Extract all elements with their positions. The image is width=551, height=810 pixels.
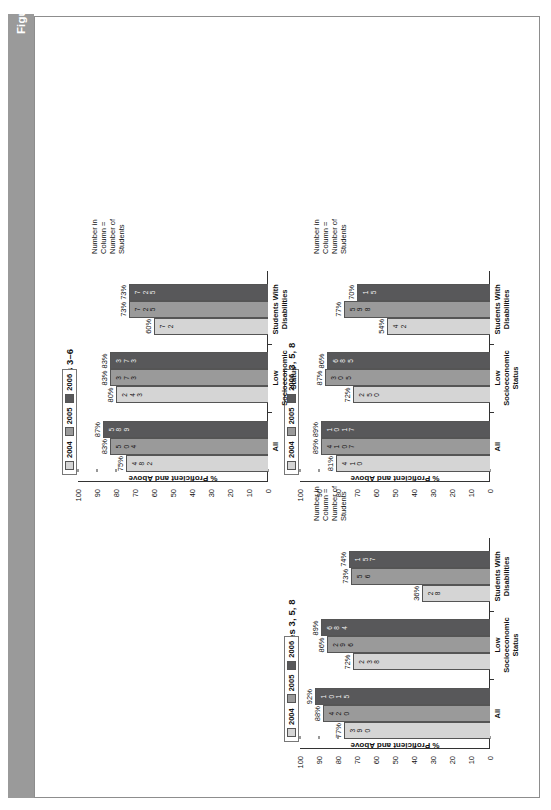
bar-2004-students[interactable]: 60%72 (154, 318, 268, 335)
bar-2006-all[interactable]: 92%1015 (315, 688, 490, 705)
count-digit: 7 (123, 376, 131, 380)
y-tick-label: 80 (112, 489, 121, 509)
legend-item-2005[interactable]: 2005 (65, 408, 74, 437)
bar-student-count: 373 (115, 376, 138, 380)
bar-group: 36%2873%5674%157Students With Disabiliti… (300, 542, 490, 611)
legend-item-2006[interactable]: 2006 (287, 641, 296, 670)
figure-title-bar (8, 14, 34, 798)
bar-2005-all[interactable]: 89%4107 (321, 438, 490, 455)
legend-label: 2004 (287, 441, 296, 458)
y-tick-label: 10 (245, 489, 254, 509)
bar-2005-low[interactable]: 87%305 (325, 370, 490, 387)
legend-swatch-icon (287, 661, 296, 670)
legend-item-2006[interactable]: 2006 (65, 374, 74, 403)
group-separator (490, 344, 494, 345)
legend-swatch-icon (65, 461, 74, 470)
bar-2005-students[interactable]: 73%725 (129, 301, 268, 318)
bar-2006-low[interactable]: 89%684 (321, 620, 490, 637)
count-digit: 5 (345, 376, 353, 380)
bar-group-label: Students With Disabilities (493, 542, 511, 611)
bar-2004-low[interactable]: 80%243 (116, 387, 268, 404)
count-digit: 1 (335, 695, 343, 699)
count-digit: 3 (130, 359, 138, 363)
y-tick-label: 80 (334, 489, 343, 509)
bar-value-label: 72% (343, 654, 352, 669)
bar-2004-all[interactable]: 81%410 (336, 455, 490, 472)
bar-2005-low[interactable]: 86%296 (327, 637, 490, 654)
bar-2004-all[interactable]: 77%390 (344, 722, 490, 739)
bar-group-label: All (271, 412, 280, 481)
count-digit: 5 (370, 291, 378, 295)
y-tick-label: 10 (467, 756, 476, 776)
bar-student-count: 1015 (320, 695, 350, 699)
legend-item-2004[interactable]: 2004 (65, 441, 74, 470)
bar-2006-all[interactable]: 87%589 (103, 421, 268, 438)
bar-group: 77%39088%42092%1015All (300, 679, 490, 748)
bar-student-count: 305 (330, 376, 353, 380)
chart-science: Science, Grades 3–6% Proficient and Abov… (64, 271, 268, 521)
bar-2004-students[interactable]: 36%28 (422, 585, 490, 602)
bar-2004-all[interactable]: 75%482 (126, 455, 269, 472)
bar-2005-students[interactable]: 73%56 (351, 568, 490, 585)
bar-value-label: 77% (334, 302, 343, 317)
bar-value-label: 81% (326, 456, 335, 471)
y-tick-label: 0 (264, 489, 273, 509)
count-digit: 7 (123, 359, 131, 363)
bar-groups: 81%41089%410789%1017All72%25087%30586%68… (300, 275, 490, 481)
count-digit: 1 (320, 695, 328, 699)
count-digit: 4 (341, 626, 349, 630)
plot-area: % Proficient and Above100908070605040302… (300, 538, 490, 788)
bar-group-label: Low Socioeconomic Status (271, 344, 298, 413)
y-tick-label: 100 (74, 489, 83, 509)
bar-2005-students[interactable]: 77%598 (344, 301, 490, 318)
count-digit: 4 (326, 445, 334, 449)
bar-2006-students[interactable]: 70%15 (357, 284, 490, 301)
count-digit: 0 (341, 445, 349, 449)
count-digit: 2 (400, 325, 408, 329)
y-tick-label: 20 (448, 756, 457, 776)
legend-swatch-icon (65, 394, 74, 403)
bar-value-label: 83% (100, 353, 109, 368)
y-tick-label: 40 (410, 489, 419, 509)
count-digit: 1 (326, 428, 334, 432)
count-digit: 2 (142, 308, 150, 312)
bar-2005-all[interactable]: 88%420 (323, 705, 490, 722)
bar-2004-low[interactable]: 72%238 (353, 654, 490, 671)
bar-group: 81%41089%410789%1017All (300, 412, 490, 481)
count-digit: 0 (364, 729, 372, 733)
bar-2006-low[interactable]: 86%685 (327, 353, 490, 370)
bar-2004-low[interactable]: 72%250 (353, 387, 490, 404)
charts-rotated-wrapper: Mathematics, Grades 3, 5, 8% Proficient … (36, 18, 538, 796)
figure-title: Figure 1.2 Johnson County, Tennessee, Im… (8, 0, 34, 40)
bar-2006-low[interactable]: 83%373 (110, 353, 268, 370)
bar-2005-all[interactable]: 83%504 (110, 438, 268, 455)
count-digit: 5 (343, 695, 351, 699)
count-digit: 8 (434, 592, 442, 596)
count-digit: 5 (347, 359, 355, 363)
bar-2006-students[interactable]: 73%725 (129, 284, 268, 301)
y-tick-label: 20 (226, 489, 235, 509)
legend-swatch-icon (287, 461, 296, 470)
count-digit: 8 (333, 626, 341, 630)
legend-item-2004[interactable]: 2004 (287, 708, 296, 737)
bar-value-label: 80% (106, 387, 115, 402)
bar-value-label: 87% (315, 370, 324, 385)
count-digit: 8 (373, 660, 381, 664)
y-tick-label: 90 (315, 756, 324, 776)
student-count-note: Number in Column = Number of Students (312, 219, 348, 254)
count-digit: 5 (149, 308, 157, 312)
legend-label: 2004 (65, 441, 74, 458)
legend-label: 2006 (287, 641, 296, 658)
bar-2006-all[interactable]: 89%1017 (321, 421, 490, 438)
bar-2004-students[interactable]: 54%42 (387, 318, 490, 335)
bar-group: 60%7273%72573%725Students With Disabilit… (78, 275, 268, 344)
count-digit: 2 (167, 325, 175, 329)
legend-item-2004[interactable]: 2004 (287, 441, 296, 470)
y-axis-line (300, 481, 490, 482)
bar-value-label: 86% (317, 353, 326, 368)
bar-2006-students[interactable]: 74%157 (349, 551, 490, 568)
legend-item-2005[interactable]: 2005 (287, 675, 296, 704)
bar-2005-low[interactable]: 83%373 (110, 370, 268, 387)
bar-value-label: 92% (305, 689, 314, 704)
bar-student-count: 390 (349, 729, 372, 733)
